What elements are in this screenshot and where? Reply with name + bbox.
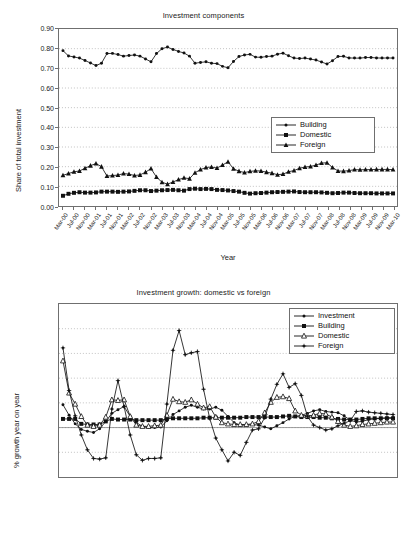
legend-marker-icon	[293, 331, 315, 341]
x-axis-tick-mark	[173, 207, 174, 210]
y-axis-tick-label: 0.30	[0, 144, 54, 151]
legend-item-domestic[interactable]: Domestic	[293, 331, 390, 341]
x-axis-label: Year	[58, 253, 398, 262]
y-axis-tick-mark	[55, 127, 58, 128]
y-axis-tick-mark	[55, 167, 58, 168]
y-axis-tick-mark	[55, 28, 58, 29]
y-axis-tick-label: 0.40	[0, 124, 54, 131]
x-axis-tick-mark	[250, 207, 251, 210]
x-axis-tick-mark	[261, 207, 262, 210]
x-axis-tick-mark	[350, 207, 351, 210]
y-axis-tick-label: 0.20	[0, 164, 54, 171]
chart-title: Investment growth: domestic vs foreign	[0, 288, 407, 297]
x-axis-tick-mark	[361, 207, 362, 210]
legend-label: Foreign	[297, 140, 325, 150]
y-axis-tick-mark	[55, 48, 58, 49]
legend-marker-icon	[293, 311, 315, 321]
x-axis-tick-mark	[383, 207, 384, 210]
legend-item-foreign[interactable]: Foreign	[275, 140, 370, 150]
y-axis-label: % growth year on year	[12, 393, 21, 468]
legend-item-building[interactable]: Building	[293, 321, 390, 331]
x-axis-tick-mark	[128, 207, 129, 210]
y-axis-tick-mark	[55, 68, 58, 69]
legend-marker-icon	[275, 140, 297, 150]
x-axis-tick-mark	[106, 207, 107, 210]
x-axis-tick-mark	[217, 207, 218, 210]
x-axis-tick-mark	[206, 207, 207, 210]
y-axis-tick-label: 0.70	[0, 64, 54, 71]
y-axis-tick-label: 0.00	[0, 204, 54, 211]
chart-title: Investment components	[0, 11, 407, 20]
legend-label: Investment	[315, 311, 355, 321]
x-axis-tick-mark	[283, 207, 284, 210]
chart-legend[interactable]: InvestmentBuildingDomesticForeign	[289, 308, 395, 354]
x-axis-tick-mark	[117, 207, 118, 210]
legend-item-foreign[interactable]: Foreign	[293, 341, 390, 351]
x-axis-tick-mark	[195, 207, 196, 210]
x-axis-tick-mark	[294, 207, 295, 210]
legend-item-investment[interactable]: Investment	[293, 311, 390, 321]
legend-label: Domestic	[315, 331, 349, 341]
x-axis-tick-mark	[62, 207, 63, 210]
legend-label: Domestic	[297, 130, 331, 140]
chart-legend[interactable]: BuildingDomesticForeign	[271, 117, 375, 153]
x-axis-tick-mark	[394, 207, 395, 210]
y-axis-tick-label: 0.10	[0, 184, 54, 191]
legend-item-building[interactable]: Building	[275, 120, 370, 130]
legend-marker-icon	[275, 120, 297, 130]
y-axis-tick-mark	[55, 147, 58, 148]
legend-label: Building	[315, 321, 345, 331]
y-axis-tick-mark	[55, 207, 58, 208]
x-axis-tick-mark	[184, 207, 185, 210]
legend-marker-icon	[293, 321, 315, 331]
x-axis-tick-mark	[228, 207, 229, 210]
x-axis-tick-mark	[84, 207, 85, 210]
y-axis-tick-mark	[55, 187, 58, 188]
x-axis-tick-mark	[73, 207, 74, 210]
chart-investment-growth: Investment growth: domestic vs foreign %…	[0, 270, 407, 538]
x-axis-tick-mark	[339, 207, 340, 210]
x-axis-tick-mark	[328, 207, 329, 210]
y-axis-tick-label: 0.90	[0, 25, 54, 32]
legend-item-domestic[interactable]: Domestic	[275, 130, 370, 140]
legend-marker-icon	[293, 341, 315, 351]
chart-investment-components: Investment components Share of total inv…	[0, 0, 407, 270]
x-axis-tick-mark	[272, 207, 273, 210]
legend-marker-icon	[275, 130, 297, 140]
x-axis-tick-mark	[151, 207, 152, 210]
y-axis-tick-label: 0.80	[0, 44, 54, 51]
legend-label: Building	[297, 120, 327, 130]
x-axis-tick-mark	[305, 207, 306, 210]
x-axis-tick-mark	[317, 207, 318, 210]
legend-label: Foreign	[315, 341, 343, 351]
y-axis-tick-mark	[55, 108, 58, 109]
y-axis-tick-label: 0.50	[0, 104, 54, 111]
x-axis-tick-mark	[162, 207, 163, 210]
x-axis-tick-mark	[239, 207, 240, 210]
x-axis-tick-mark	[372, 207, 373, 210]
y-axis-tick-mark	[55, 88, 58, 89]
y-axis-tick-label: 0.60	[0, 84, 54, 91]
x-axis-tick-mark	[95, 207, 96, 210]
x-axis-tick-mark	[139, 207, 140, 210]
